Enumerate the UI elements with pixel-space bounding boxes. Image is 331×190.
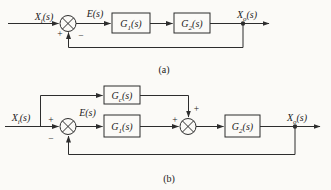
output-signal-label: Xo(s) (236, 9, 258, 23)
plus-sign-label: + (57, 29, 62, 39)
plus-sign-label: + (48, 115, 53, 125)
block-diagram-canvas: Xi(s) + − E(s) G1(s) G2(s) Xo(s) (a) Xi(… (0, 0, 331, 190)
gc-to-sum2-arrow (140, 96, 189, 118)
caption-a: (a) (158, 64, 169, 76)
minus-sign-label: − (78, 31, 83, 41)
minus-sign-label: − (48, 134, 53, 144)
diagram-b: Xi(s) Gc(s) + − E(s) G1(s) + + (5, 86, 320, 185)
summing-junction-icon (60, 119, 76, 135)
block-diagram-figure: Xi(s) + − E(s) G1(s) G2(s) Xo(s) (a) Xi(… (0, 0, 331, 190)
plus-sign-label: + (194, 104, 199, 114)
error-signal-label: E(s) (78, 107, 96, 119)
plus-sign-label: + (172, 115, 177, 125)
output-signal-label: Xo(s) (286, 112, 308, 126)
input-signal-label: Xi(s) (11, 112, 31, 126)
diagram-a: Xi(s) + − E(s) G1(s) G2(s) Xo(s) (a) (8, 8, 269, 76)
summing-junction-icon (180, 119, 196, 135)
feedback-path (69, 24, 244, 48)
error-signal-label: E(s) (86, 8, 104, 20)
input-signal-label: Xi(s) (34, 11, 54, 25)
caption-b: (b) (163, 173, 175, 185)
